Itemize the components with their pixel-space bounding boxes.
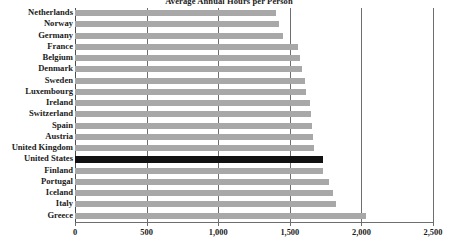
- x-tick-2000: [361, 222, 362, 226]
- bar: [75, 89, 306, 95]
- x-tick-label: 1,000: [188, 228, 248, 237]
- bar-chart: Average Annual Hours per Person 05001,00…: [0, 0, 458, 250]
- category-label: Italy: [0, 198, 73, 209]
- bar: [75, 21, 279, 27]
- bar-row: [75, 166, 433, 177]
- gridline-2500: [433, 8, 434, 222]
- bar: [75, 123, 312, 129]
- bar: [75, 44, 298, 50]
- bar: [75, 111, 311, 117]
- x-tick-2500: [433, 222, 434, 226]
- bar-row: [75, 76, 433, 87]
- bar-row: [75, 53, 433, 64]
- category-label: Germany: [0, 30, 73, 41]
- bar-row: [75, 87, 433, 98]
- bar-row: [75, 177, 433, 188]
- x-axis-line: [75, 222, 433, 223]
- bar-highlight: [75, 156, 323, 163]
- x-tick-label: 500: [117, 228, 177, 237]
- category-label: Belgium: [0, 52, 73, 63]
- bar-row: [75, 31, 433, 42]
- x-tick-1500: [290, 222, 291, 226]
- x-tick-label: 1,500: [260, 228, 320, 237]
- x-tick-500: [147, 222, 148, 226]
- bar-row: [75, 188, 433, 199]
- bar-row: [75, 154, 433, 165]
- category-label: Finland: [0, 165, 73, 176]
- plot-area: [75, 8, 433, 222]
- bar-row: [75, 64, 433, 75]
- bar-row: [75, 199, 433, 210]
- category-label: Switzerland: [0, 108, 73, 119]
- chart-title: Average Annual Hours per Person: [0, 0, 458, 6]
- category-label: Portugal: [0, 176, 73, 187]
- category-label: United Kingdom: [0, 142, 73, 153]
- category-label: Norway: [0, 18, 73, 29]
- bar: [75, 100, 310, 106]
- category-label: United States: [0, 153, 73, 164]
- category-label: France: [0, 41, 73, 52]
- x-tick-label: 2,500: [403, 228, 458, 237]
- category-label: Ireland: [0, 97, 73, 108]
- bar-row: [75, 98, 433, 109]
- bar-row: [75, 19, 433, 30]
- category-label: Spain: [0, 120, 73, 131]
- category-label: Iceland: [0, 187, 73, 198]
- bar: [75, 201, 336, 207]
- bar: [75, 33, 283, 39]
- bar: [75, 78, 305, 84]
- x-tick-label: 2,000: [331, 228, 391, 237]
- x-tick-label: 0: [45, 228, 105, 237]
- bar: [75, 66, 302, 72]
- category-label: Austria: [0, 131, 73, 142]
- bar-row: [75, 42, 433, 53]
- bar: [75, 134, 313, 140]
- bar-row: [75, 109, 433, 120]
- bar: [75, 10, 276, 16]
- category-label: Luxembourg: [0, 86, 73, 97]
- bar-row: [75, 8, 433, 19]
- category-label: Greece: [0, 210, 73, 221]
- category-label: Denmark: [0, 63, 73, 74]
- x-tick-0: [75, 222, 76, 226]
- bar-row: [75, 132, 433, 143]
- bar: [75, 179, 329, 185]
- category-label: Sweden: [0, 75, 73, 86]
- bar: [75, 168, 323, 174]
- bar: [75, 190, 333, 196]
- bar-row: [75, 121, 433, 132]
- x-tick-1000: [218, 222, 219, 226]
- bar: [75, 145, 314, 151]
- category-label: Netherlands: [0, 7, 73, 18]
- bar: [75, 55, 300, 61]
- bar: [75, 213, 366, 219]
- bar-row: [75, 143, 433, 154]
- bar-row: [75, 211, 433, 222]
